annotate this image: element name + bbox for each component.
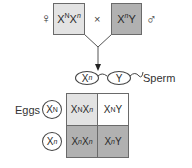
male-genotype: XnY <box>117 13 136 25</box>
male-symbol-icon: ♂ <box>146 12 157 26</box>
female-genotype: XNXn <box>57 13 81 25</box>
punnett-cell-xNy: XNY <box>97 93 129 126</box>
punnett-cell-xny: XnY <box>97 125 129 158</box>
egg-xn-circle: Xn <box>42 132 62 151</box>
sperm-tail-1 <box>98 74 107 76</box>
female-parent-box: XNXn <box>53 3 85 35</box>
sperm-y-circle: Y <box>107 71 131 85</box>
egg-xN-circle: XN <box>42 100 62 119</box>
sperm-label: Sperm <box>143 72 175 84</box>
eggs-label: Eggs <box>15 104 40 116</box>
female-symbol-icon: ♀ <box>41 11 52 25</box>
punnett-cell-xnxn: XnXn <box>66 125 98 158</box>
cross-symbol: × <box>94 13 100 25</box>
punnett-cell-xNxn: XNXn <box>66 93 98 126</box>
male-parent-box: XnY <box>111 3 142 35</box>
sperm-x-circle: Xn <box>75 71 99 85</box>
sperm-tail-2 <box>130 72 143 77</box>
